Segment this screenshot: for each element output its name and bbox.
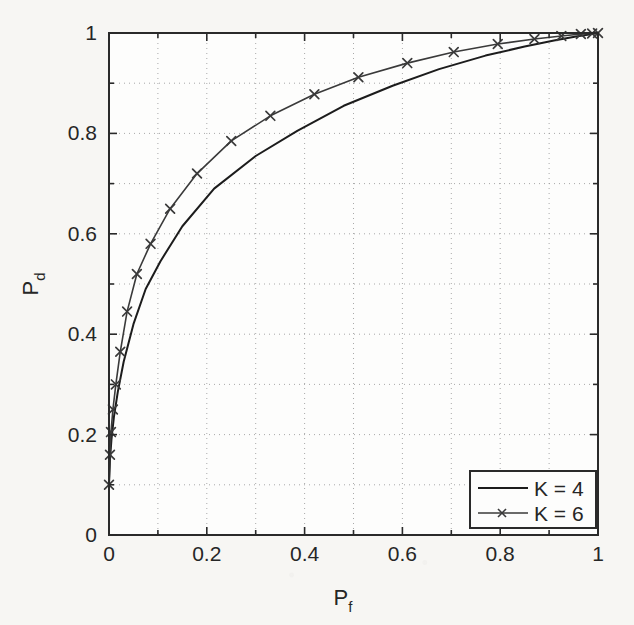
x-axis-title-subscript: f <box>348 598 353 615</box>
roc-chart: 00.20.40.60.8100.20.40.60.81 Pf Pd K = 4 <box>0 0 634 625</box>
svg-text:Pf: Pf <box>334 585 354 615</box>
x-tick-label: 0.6 <box>388 542 417 565</box>
x-tick-label: 0 <box>103 542 115 565</box>
x-tick-label: 1 <box>592 542 604 565</box>
x-tick-label: 0.2 <box>192 542 221 565</box>
y-tick-label: 0.8 <box>68 121 97 144</box>
figure-canvas: 00.20.40.60.8100.20.40.60.81 Pf Pd K = 4 <box>0 0 634 625</box>
y-tick-label: 0.2 <box>68 423 97 446</box>
legend-label-k4: K = 4 <box>534 477 584 500</box>
y-tick-label: 0.4 <box>68 322 98 345</box>
x-tick-label: 0.8 <box>486 542 515 565</box>
y-tick-label: 1 <box>85 21 97 44</box>
svg-text:Pd: Pd <box>18 272 48 295</box>
y-tick-label: 0.6 <box>68 222 97 245</box>
y-axis-title: Pd <box>18 272 48 295</box>
y-axis-title-base: P <box>18 281 43 296</box>
legend-label-k6: K = 6 <box>534 502 584 525</box>
y-axis-title-subscript: d <box>31 272 48 280</box>
x-tick-label: 0.4 <box>290 542 320 565</box>
y-tick-label: 0 <box>85 523 97 546</box>
legend[interactable]: K = 4 K = 6 <box>470 471 596 528</box>
x-axis-title-base: P <box>334 585 349 610</box>
x-axis-title: Pf <box>334 585 354 615</box>
